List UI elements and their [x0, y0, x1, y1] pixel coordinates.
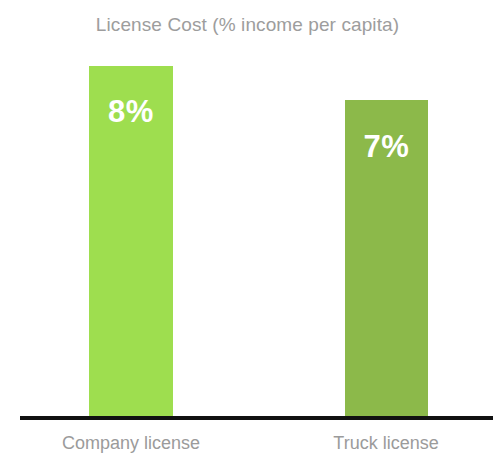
- category-label-company-license: Company license: [11, 433, 251, 454]
- bar-group-truck-license: 7%: [345, 100, 428, 418]
- plot-area: 8% 7%: [0, 0, 495, 418]
- bar-value-label-company-license: 8%: [89, 96, 173, 127]
- category-axis-labels: Company license Truck license: [0, 433, 495, 461]
- baseline-axis: [20, 416, 493, 420]
- bar-group-company-license: 8%: [89, 66, 173, 418]
- bar-chart-figure: License Cost (% income per capita) 8% 7%…: [0, 0, 495, 461]
- category-label-truck-license: Truck license: [266, 433, 495, 454]
- bar-value-label-truck-license: 7%: [345, 131, 428, 162]
